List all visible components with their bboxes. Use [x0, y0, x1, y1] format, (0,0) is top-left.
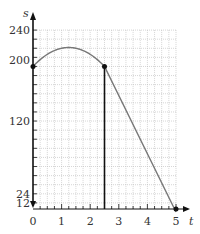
y-tick-label: 120 [9, 115, 30, 128]
y-axis-arrow-up-icon [30, 12, 36, 20]
data-point [174, 207, 179, 212]
y-tick-label: 240 [9, 24, 30, 37]
data-point [102, 64, 107, 69]
y-axis-label: s [23, 7, 29, 20]
x-tick-label: 5 [173, 215, 180, 228]
x-tick-label: 3 [115, 215, 122, 228]
y-tick-label: 200 [9, 54, 30, 67]
data-point [31, 64, 36, 69]
x-tick-label: 0 [30, 215, 37, 228]
chart: 1224120200240012345st [0, 0, 200, 234]
x-tick-label: 2 [87, 215, 94, 228]
x-tick-label: 1 [58, 215, 65, 228]
y-axis-arrow-down-icon [30, 201, 36, 208]
x-axis-label: t [189, 215, 194, 228]
x-axis-arrow-icon [183, 206, 190, 212]
y-tick-label: 24 [16, 188, 30, 201]
x-tick-label: 4 [144, 215, 151, 228]
